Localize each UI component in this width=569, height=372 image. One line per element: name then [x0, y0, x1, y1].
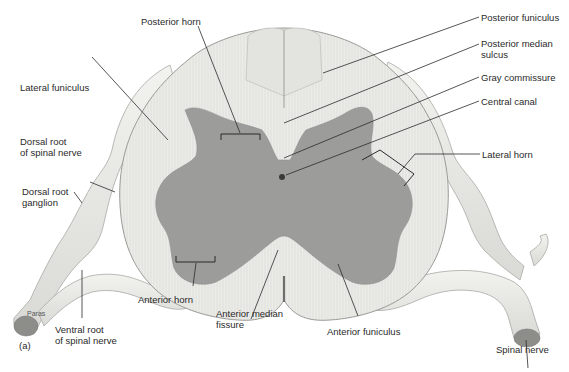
label-lateral-horn: Lateral horn	[482, 149, 533, 160]
panel-label: (a)	[19, 340, 31, 351]
label-anterior-horn: Anterior horn	[138, 294, 193, 305]
spinal-cord-diagram: Posterior horn Lateral funiculus Dorsal …	[0, 0, 569, 372]
label-ventral-root-of-spinal-nerve: Ventral root of spinal nerve	[55, 324, 117, 346]
label-dorsal-root-of-spinal-nerve: Dorsal root of spinal nerve	[20, 136, 82, 158]
left-nerve-cross-section	[14, 316, 38, 336]
label-dorsal-root-ganglion: Dorsal root ganglion	[22, 186, 68, 208]
label-posterior-median-sulcus: Posterior median sulcus	[481, 38, 553, 60]
label-central-canal: Central canal	[481, 96, 537, 107]
label-posterior-funiculus: Posterior funiculus	[481, 12, 559, 23]
label-anterior-median-fissure: Anterior median fissure	[216, 308, 283, 330]
label-spinal-nerve: Spinal nerve	[496, 344, 549, 355]
label-anterior-funiculus: Anterior funiculus	[327, 326, 400, 337]
label-posterior-horn: Posterior horn	[141, 16, 201, 27]
label-gray-commissure: Gray commissure	[481, 72, 555, 83]
artist-credit: Paras	[27, 308, 45, 319]
label-lateral-funiculus: Lateral funiculus	[20, 82, 89, 93]
central-canal	[279, 174, 285, 180]
